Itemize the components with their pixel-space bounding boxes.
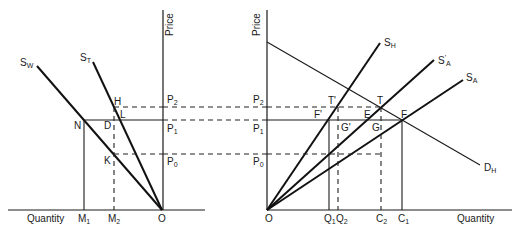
label-sa-prime: S'A <box>438 54 451 67</box>
curve-sh <box>267 43 380 210</box>
point-n: N <box>74 121 81 131</box>
right-quantity-axis-label: Quantity <box>457 214 494 224</box>
label-sw: SW <box>20 58 33 69</box>
point-k: K <box>104 156 111 166</box>
point-f: F <box>401 110 407 120</box>
label-m2: M2 <box>108 214 120 225</box>
point-l: L <box>120 110 126 120</box>
point-e: E <box>364 110 371 120</box>
point-o-right: O <box>265 214 273 224</box>
label-c1: C1 <box>398 214 409 225</box>
label-dh: DH <box>484 163 496 174</box>
curve-sa <box>267 80 463 210</box>
point-g-prime: G' <box>341 123 351 133</box>
left-panel <box>8 10 205 210</box>
label-p2-right: P2 <box>253 95 264 106</box>
label-p0-left: P0 <box>167 157 178 168</box>
label-q1: Q1 <box>324 214 336 225</box>
point-o-left: O <box>158 214 166 224</box>
point-d: D <box>104 121 111 131</box>
label-st: ST <box>80 53 91 64</box>
label-sh: SH <box>384 38 396 49</box>
point-g: G <box>372 123 380 133</box>
label-c2: C2 <box>376 214 387 225</box>
label-sa: SA <box>466 73 477 84</box>
label-p1-left: P1 <box>167 124 178 135</box>
left-quantity-axis-label: Quantity <box>27 214 64 224</box>
curve-st <box>93 62 162 210</box>
label-p1-right: P1 <box>253 124 264 135</box>
curve-sa-prime <box>267 60 434 210</box>
point-t: T <box>377 96 383 106</box>
point-f-prime: F' <box>314 110 322 120</box>
curve-sw <box>37 66 162 210</box>
point-h: H <box>114 97 121 107</box>
point-t-prime: T' <box>328 96 336 106</box>
label-p0-right: P0 <box>253 157 264 168</box>
label-p2-left: P2 <box>167 95 178 106</box>
left-price-axis-label: Price <box>165 13 175 36</box>
label-q2: Q2 <box>336 214 348 225</box>
label-m1: M1 <box>78 214 90 225</box>
right-price-axis-label: Price <box>252 13 262 36</box>
